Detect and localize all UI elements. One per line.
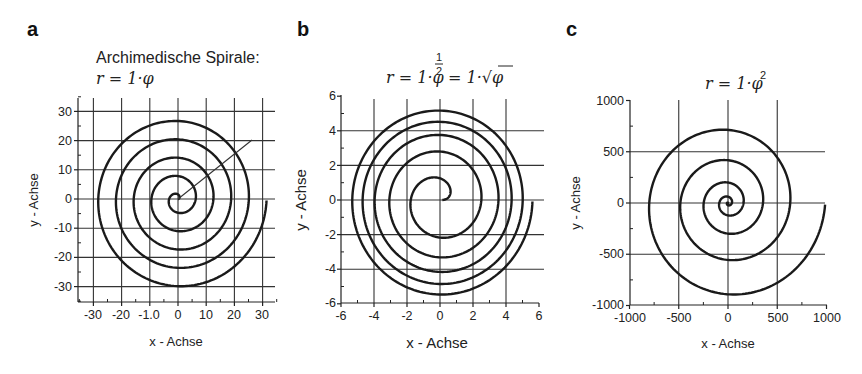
panel-c: c r = 1·φ 2 1000 500 0 -500 -1000 -1000 … bbox=[566, 18, 841, 351]
y-tick: -500 bbox=[599, 247, 624, 261]
x-tick: -500 bbox=[666, 311, 691, 325]
x-axis-label: x - Achse bbox=[149, 334, 202, 349]
y-tick: -20 bbox=[54, 250, 72, 264]
y-tick: -30 bbox=[54, 280, 72, 294]
x-axis-label: x - Achse bbox=[406, 334, 468, 351]
y-tick: -2 bbox=[325, 228, 336, 242]
formula: r = 1·φ bbox=[705, 74, 763, 93]
panel-a: a Archimedische Spirale: r = 1·φ 30 20 1… bbox=[26, 18, 277, 349]
exponent-numerator: 1 bbox=[436, 51, 442, 63]
panel-letter-b: b bbox=[297, 18, 309, 40]
exponent-denominator: 2 bbox=[436, 65, 442, 77]
x-tick: 10 bbox=[199, 308, 213, 322]
y-axis-label: y - Achse bbox=[568, 176, 583, 229]
x-tick-labels: -30 -20 -1.0 0 10 20 30 bbox=[84, 308, 269, 322]
panel-letter-a: a bbox=[27, 18, 39, 40]
x-tick: 6 bbox=[536, 309, 543, 323]
axes bbox=[78, 98, 275, 302]
y-tick: 0 bbox=[65, 192, 72, 206]
y-tick: -10 bbox=[54, 221, 72, 235]
x-tick: 2 bbox=[470, 309, 477, 323]
tick-marks bbox=[337, 96, 539, 307]
grid-lines bbox=[78, 98, 275, 302]
x-tick: -1.0 bbox=[138, 308, 160, 322]
x-tick: -4 bbox=[368, 309, 379, 323]
y-tick: 0 bbox=[617, 196, 624, 210]
y-tick: 4 bbox=[329, 124, 336, 138]
x-tick: 1000 bbox=[813, 311, 841, 325]
x-tick: -20 bbox=[112, 308, 130, 322]
x-tick-labels: -1000 -500 0 500 1000 bbox=[614, 311, 841, 325]
formula-exponent: 2 bbox=[760, 69, 766, 81]
y-tick: 20 bbox=[58, 134, 72, 148]
y-tick: 0 bbox=[329, 193, 336, 207]
x-tick: 30 bbox=[255, 308, 269, 322]
y-axis-label: y - Achse bbox=[292, 169, 309, 231]
spiral-curve bbox=[98, 121, 266, 286]
panel-b-formula: r = 1·φ 1 2 = 1·√φ bbox=[386, 51, 513, 87]
x-tick: 500 bbox=[768, 311, 789, 325]
x-tick: 0 bbox=[725, 311, 732, 325]
x-tick: -6 bbox=[335, 309, 346, 323]
x-axis-label: x - Achse bbox=[701, 336, 754, 351]
x-tick: -2 bbox=[401, 309, 412, 323]
y-tick: -4 bbox=[325, 262, 336, 276]
formula-right: = 1·√φ bbox=[448, 68, 504, 87]
panel-a-title: Archimedische Spirale: bbox=[96, 49, 260, 66]
y-tick: 2 bbox=[329, 159, 336, 173]
y-tick: -6 bbox=[325, 296, 336, 310]
y-tick: 30 bbox=[58, 105, 72, 119]
spiral-curve bbox=[352, 111, 532, 295]
panel-b: b r = 1·φ 1 2 = 1·√φ 6 4 2 0 -2 -4 -6 -6 bbox=[292, 18, 544, 351]
panel-letter-c: c bbox=[566, 18, 577, 40]
panel-c-formula: r = 1·φ 2 bbox=[705, 69, 766, 93]
y-tick: 500 bbox=[603, 145, 624, 159]
y-tick-labels: 30 20 10 0 -10 -20 -30 bbox=[54, 105, 72, 294]
x-tick: 20 bbox=[227, 308, 241, 322]
y-tick: 10 bbox=[58, 163, 72, 177]
x-tick: -30 bbox=[84, 308, 102, 322]
tick-marks bbox=[74, 97, 277, 306]
x-tick: 0 bbox=[175, 308, 182, 322]
x-tick-labels: -6 -4 -2 0 2 4 6 bbox=[335, 309, 542, 323]
y-tick: 1000 bbox=[596, 94, 624, 108]
y-tick-labels: 6 4 2 0 -2 -4 -6 bbox=[325, 89, 336, 310]
x-tick: 4 bbox=[503, 309, 510, 323]
y-tick-labels: 1000 500 0 -500 -1000 bbox=[592, 94, 624, 312]
panel-a-formula: r = 1·φ bbox=[96, 69, 154, 88]
x-tick: 0 bbox=[437, 309, 444, 323]
y-tick: -1000 bbox=[592, 298, 624, 312]
figure: a Archimedische Spirale: r = 1·φ 30 20 1… bbox=[0, 0, 862, 374]
y-tick: 6 bbox=[329, 89, 336, 103]
y-axis-label: y - Achse bbox=[26, 173, 41, 226]
x-tick: -1000 bbox=[614, 311, 646, 325]
spiral-curve bbox=[649, 130, 825, 295]
